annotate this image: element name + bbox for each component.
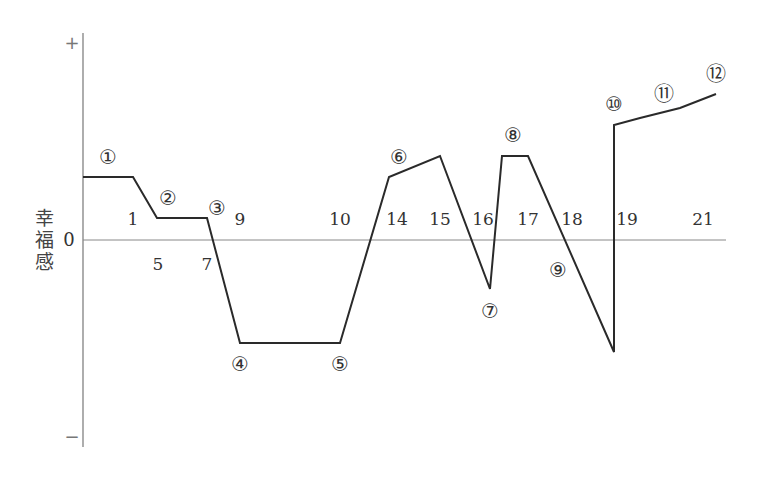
y-axis-title: 幸 福 感 (33, 207, 55, 273)
event-point-label: ③ (208, 198, 226, 218)
event-point-label: ② (159, 188, 177, 208)
age-tick-label: 15 (429, 211, 451, 228)
age-tick-label: 14 (386, 211, 408, 228)
y-axis-zero-label: 0 (63, 231, 74, 249)
event-point-label: ⑥ (390, 147, 408, 167)
event-point-label: ⑩ (605, 94, 623, 114)
age-tick-label: 7 (202, 256, 213, 273)
age-tick-label: 1 (128, 211, 139, 228)
event-point-label: ⑦ (481, 301, 499, 321)
y-axis-title-char: 福 (33, 229, 55, 251)
event-point-label: ⑫ (706, 64, 726, 84)
event-point-label: ⑤ (331, 354, 349, 374)
age-tick-label: 21 (692, 211, 714, 228)
event-point-label: ④ (231, 354, 249, 374)
age-tick-label: 17 (517, 211, 539, 228)
event-point-label: ⑪ (654, 84, 674, 104)
age-tick-label: 18 (561, 211, 583, 228)
event-point-label: ⑨ (549, 260, 567, 280)
y-axis-plus-marker: + (64, 34, 79, 52)
age-tick-label: 5 (153, 256, 164, 273)
y-axis-minus-marker: − (64, 428, 79, 446)
event-point-label: ① (99, 147, 117, 167)
happiness-chart (0, 0, 763, 477)
age-tick-label: 10 (329, 211, 351, 228)
y-axis-title-char: 感 (33, 251, 55, 273)
age-tick-label: 19 (616, 211, 638, 228)
age-tick-label: 16 (472, 211, 494, 228)
event-point-label: ⑧ (504, 125, 522, 145)
y-axis-title-char: 幸 (33, 207, 55, 229)
age-tick-label: 9 (235, 211, 246, 228)
